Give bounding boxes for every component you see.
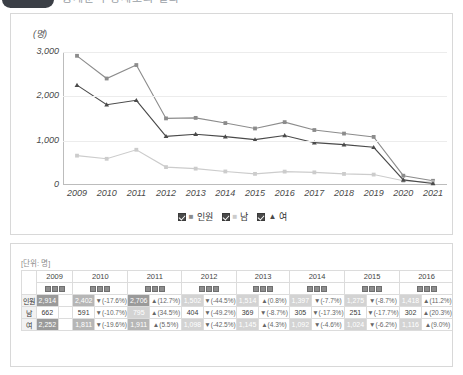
x-axis-tick: 2021	[423, 188, 443, 198]
column-tool-icon[interactable]	[376, 286, 382, 292]
table-column-tools[interactable]	[73, 283, 128, 295]
x-axis-tick: 2019	[364, 188, 384, 198]
column-tool-icon[interactable]	[213, 286, 219, 292]
y-axis-tick: 3,000	[17, 46, 59, 56]
column-tool-icon[interactable]	[145, 286, 151, 292]
table-value-cell: 1,092	[289, 319, 311, 331]
legend-marker-icon: ■	[189, 213, 194, 221]
legend-item-여[interactable]: ▲여	[257, 210, 287, 223]
chart-panel: (명) 3,0002,0001,0000 2009201020112012201…	[10, 13, 453, 235]
table-year-header[interactable]: 2016	[400, 271, 453, 283]
chart-point-남	[134, 148, 138, 152]
x-axis-tick: 2009	[67, 188, 87, 198]
table-row-header: 인원	[22, 295, 37, 307]
table-year-header[interactable]: 2012	[182, 271, 237, 283]
column-tool-icon[interactable]	[206, 286, 212, 292]
table-head: 20092010201120122013201420152016	[22, 271, 454, 295]
chart-point-인원	[164, 117, 168, 121]
table-header-row-icons	[22, 283, 454, 295]
table-year-header[interactable]: 2011	[128, 271, 182, 283]
table-value-cell: 2,914	[36, 295, 58, 307]
table-value-cell: 1,024	[345, 319, 367, 331]
table-value-cell: 1,514	[237, 295, 259, 307]
legend-label: 인원	[197, 210, 213, 223]
table-year-header[interactable]: 2014	[289, 271, 344, 283]
table-year-header[interactable]: 2009	[36, 271, 72, 283]
table-value-cell: 1,418	[400, 295, 422, 307]
column-tool-icon[interactable]	[417, 286, 423, 292]
column-tool-icon[interactable]	[45, 286, 51, 292]
chart-point-남	[194, 167, 198, 171]
column-tool-icon[interactable]	[307, 286, 313, 292]
table-change-cell: ▼(-7.7%)	[311, 295, 344, 307]
table-column-tools[interactable]	[36, 283, 72, 295]
chart-point-남	[283, 170, 287, 174]
column-tool-icons	[73, 286, 127, 292]
column-tool-icon[interactable]	[314, 286, 320, 292]
table-value-cell: 251	[345, 307, 367, 319]
legend-checkbox-icon[interactable]	[257, 213, 265, 221]
table-value-cell: 2,252	[36, 319, 58, 331]
chart-point-남	[164, 165, 168, 169]
table-value-cell: 1,811	[73, 319, 95, 331]
column-tool-icon[interactable]	[59, 286, 65, 292]
column-tool-icon[interactable]	[424, 286, 430, 292]
table-column-tools[interactable]	[237, 283, 290, 295]
column-tool-icons	[237, 286, 289, 292]
column-tool-icon[interactable]	[362, 286, 368, 292]
table-change-cell: ▼(-10.7%)	[95, 307, 128, 319]
legend-checkbox-icon[interactable]	[222, 213, 230, 221]
column-tool-icon[interactable]	[321, 286, 327, 292]
table-year-header[interactable]: 2015	[345, 271, 400, 283]
column-tool-icon[interactable]	[97, 286, 103, 292]
y-axis-tick: 0	[17, 179, 59, 189]
page-title: 통계분석 상세조회 결과	[62, 0, 180, 5]
column-tool-icon[interactable]	[253, 286, 259, 292]
chart-point-인원	[283, 120, 287, 124]
column-tool-icon[interactable]	[199, 286, 205, 292]
table-change-cell	[58, 295, 73, 307]
column-tool-icon[interactable]	[90, 286, 96, 292]
table-change-cell: ▼(-4.6%)	[311, 319, 344, 331]
column-tool-icon[interactable]	[369, 286, 375, 292]
column-tool-icon[interactable]	[159, 286, 165, 292]
column-tool-icon[interactable]	[52, 286, 58, 292]
column-tool-icons	[128, 286, 181, 292]
table-value-cell: 404	[182, 307, 204, 319]
y-axis-tick-labels: 3,0002,0001,0000	[11, 52, 59, 185]
column-tool-icon[interactable]	[267, 286, 273, 292]
column-tool-icon[interactable]	[104, 286, 110, 292]
table-year-header[interactable]: 2010	[73, 271, 128, 283]
chart-plot-area	[63, 52, 447, 185]
table-column-tools[interactable]	[400, 283, 453, 295]
column-tool-icon[interactable]	[152, 286, 158, 292]
table-year-header[interactable]: 2013	[237, 271, 290, 283]
chart-point-인원	[312, 128, 316, 132]
table-column-tools[interactable]	[128, 283, 182, 295]
table-value-cell: 795	[128, 307, 150, 319]
table-row: 여2,2521,811▼(-19.6%)1,911▲(5.5%)1,098▼(-…	[22, 319, 454, 331]
legend-item-인원[interactable]: ■인원	[178, 210, 213, 223]
x-axis-tick: 2014	[215, 188, 235, 198]
x-axis-tick: 2015	[245, 188, 265, 198]
chart-point-인원	[134, 63, 138, 67]
legend-checkbox-icon[interactable]	[178, 213, 186, 221]
table-corner-cell	[22, 271, 37, 295]
legend-item-남[interactable]: ■남	[222, 210, 249, 223]
column-tool-icons	[345, 286, 399, 292]
chart-point-남	[312, 170, 316, 174]
table-column-tools[interactable]	[289, 283, 344, 295]
table-value-cell: 302	[400, 307, 422, 319]
x-axis-tick: 2012	[156, 188, 176, 198]
column-tool-icon[interactable]	[431, 286, 437, 292]
x-axis-tick: 2018	[334, 188, 354, 198]
legend-label: 남	[240, 210, 248, 223]
table-scroll-area[interactable]: 20092010201120122013201420152016 인원2,914…	[21, 270, 453, 332]
table-column-tools[interactable]	[182, 283, 237, 295]
chart-line-여	[77, 85, 433, 183]
table-change-cell: ▼(-42.5%)	[203, 319, 236, 331]
table-unit-label: [단위: 명]	[21, 257, 50, 268]
column-tool-icon[interactable]	[260, 286, 266, 292]
table-column-tools[interactable]	[345, 283, 400, 295]
chart-point-인원	[223, 121, 227, 125]
